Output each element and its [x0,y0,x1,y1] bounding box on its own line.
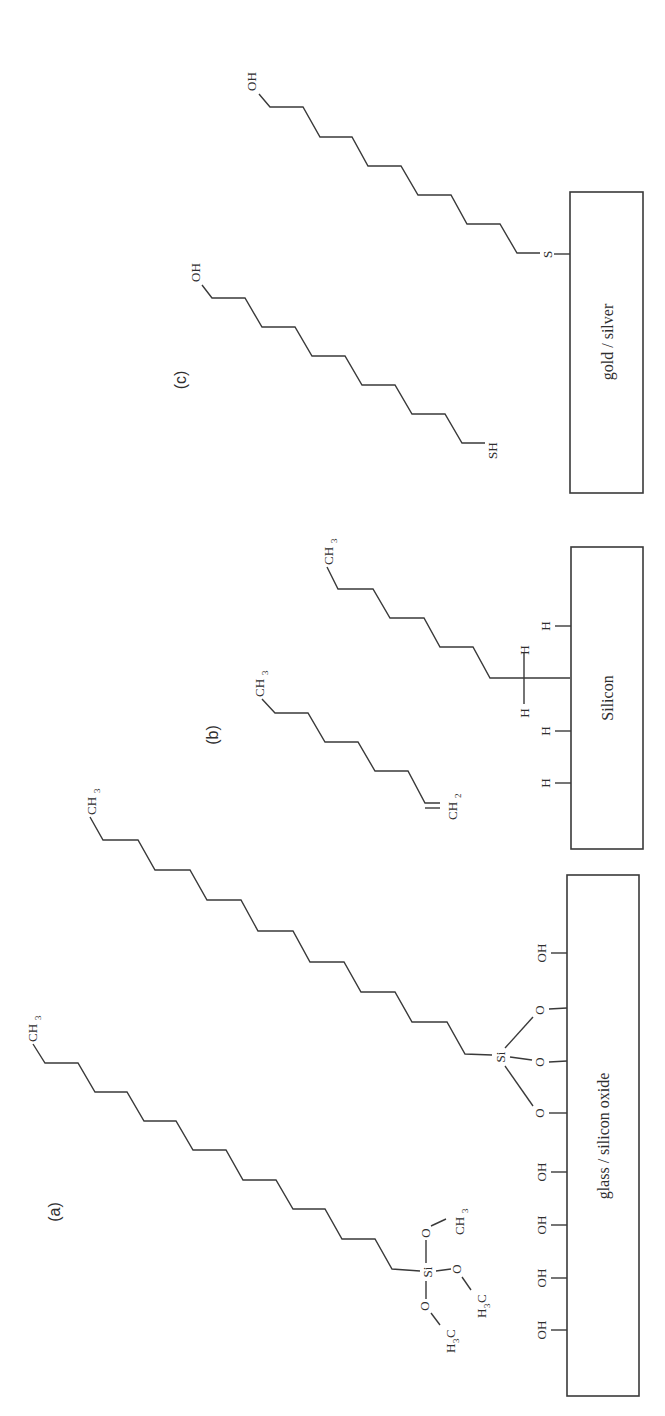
alkene-ch3-label: CH 3 [252,670,270,697]
free-silane-chain [33,1044,420,1271]
svg-text:CH: CH [252,679,267,697]
substrate-glass: glass / silicon oxide [567,875,639,1396]
svg-text:CH: CH [321,547,336,565]
svg-text:3: 3 [460,1208,470,1213]
free-si-label: Si [420,1266,435,1277]
free-thiol-molecule: OH SH [188,263,500,459]
thiol-sh-label: SH [485,442,500,459]
svg-text:CH: CH [84,797,99,815]
si-o-bond-1 [505,1017,533,1048]
glass-label: glass / silicon oxide [595,1073,613,1200]
si-h-2: H [538,726,553,735]
alkyl-chain [327,567,570,678]
svg-text:3: 3 [92,788,102,793]
substrate-silicon: Silicon [571,547,643,849]
ch2-h-lower: H [517,708,532,717]
svg-text:2: 2 [453,794,463,799]
free-o-up: O [418,1228,433,1237]
thiolate-chain [259,94,540,253]
bound-alkyl-molecule: CH 3 H H [321,538,570,718]
bound-thiolate-molecule: OH S [244,72,570,258]
alkyl-ch3-label: CH 3 [321,538,339,565]
thiol-oh-label: OH [188,263,203,282]
bound-o-2: O [532,1057,547,1066]
free-silane-ch3-label: CH 3 [25,1015,43,1042]
free-silane-molecule: CH 3 Si O O O CH 3 H 3 C H 3 C [25,1015,492,1353]
panel-label-c: (c) [172,371,189,390]
silicon-label: Silicon [599,675,616,720]
svg-text:CH: CH [452,1217,467,1235]
surface-oh-1: OH [534,944,549,963]
svg-text:3: 3 [260,670,270,675]
si-o-bond-3 [505,1066,533,1106]
svg-text:H: H [474,1309,489,1318]
svg-text:C: C [443,1329,458,1338]
panel-label-b: (b) [204,725,221,745]
si-h-3: H [538,778,553,787]
bound-si-label: Si [493,1051,508,1062]
svg-text:3: 3 [33,1015,43,1020]
svg-text:CH: CH [445,802,460,820]
svg-text:3: 3 [329,538,339,543]
free-o-right: O [449,1264,464,1273]
surface-oh-2: OH [534,1163,549,1182]
free-o-down: O [417,1301,432,1310]
surface-oh-3: OH [534,1216,549,1235]
o-ch3-bond-down [431,1313,440,1325]
thiolate-s-label: S [540,251,555,258]
thiolate-oh-label: OH [244,72,259,91]
bound-silane-ch3-label: CH 3 [84,788,102,815]
alkene-chain [262,699,440,803]
methoxy-ch3-label: CH 3 [452,1208,470,1235]
methoxy-h3c-label-down: H 3 C [443,1329,461,1353]
svg-text:C: C [474,1294,489,1303]
silicon-surface-hydrides: H H H [538,621,571,787]
thiol-chain [202,285,485,443]
o-ch3-bond-up [431,1219,446,1226]
surface-oh-4: OH [534,1269,549,1288]
o-surface-bond-1 [549,1008,567,1009]
bound-o-3: O [532,1108,547,1117]
panel-label-a: (a) [46,1202,63,1222]
surface-oh-5: OH [534,1321,549,1340]
bound-o-1: O [532,1005,547,1014]
svg-text:H: H [443,1344,458,1353]
si-h-1: H [538,621,553,630]
ch2-h-upper: H [517,645,532,654]
gold-silver-label: gold / silver [599,303,617,380]
substrate-gold-silver: gold / silver [570,192,643,493]
glass-surface-hydroxyls: OH OH OH OH OH [534,944,567,1340]
bound-silane-chain [90,817,492,1055]
o-ch3-bond-right [462,1277,471,1290]
si-o-bond-2 [510,1057,532,1060]
bound-silane-molecule: CH 3 Si O O O [84,788,567,1118]
monolayer-diagram: gold / silver Silicon glass / silicon ox… [0,0,665,1416]
svg-text:CH: CH [25,1024,40,1042]
alkene-ch2-label: CH 2 [445,794,463,821]
methoxy-h3c-label-right: H 3 C [474,1294,492,1318]
o-surface-bond-2 [549,1061,567,1062]
free-alkene-molecule: CH 3 CH 2 [252,670,463,820]
